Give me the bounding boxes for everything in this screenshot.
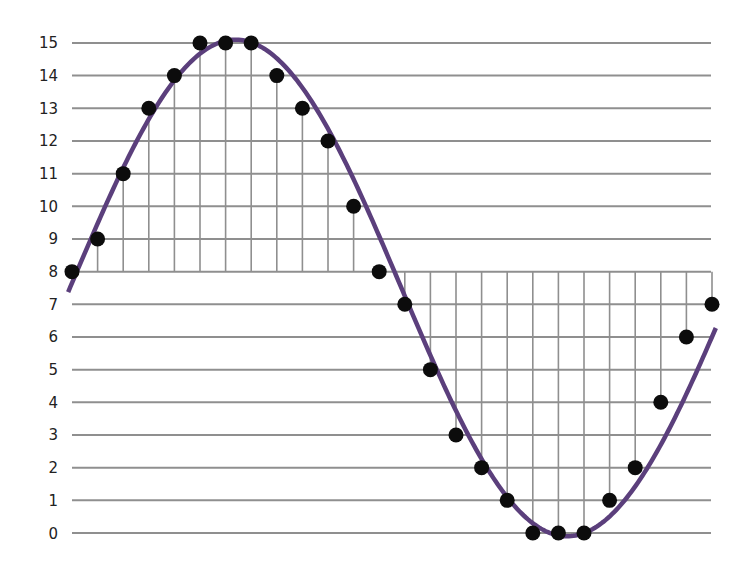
sample-point xyxy=(269,68,284,83)
y-tick-label: 13 xyxy=(39,100,58,118)
y-axis-tick-labels: 0123456789101112131415 xyxy=(39,34,58,542)
sample-point xyxy=(628,460,643,475)
sample-point xyxy=(141,101,156,116)
sample-stems xyxy=(72,43,712,533)
sample-point xyxy=(397,297,412,312)
sample-point xyxy=(116,166,131,181)
sample-point xyxy=(244,35,259,50)
y-tick-label: 11 xyxy=(39,165,58,183)
sample-point xyxy=(295,101,310,116)
sample-point xyxy=(602,493,617,508)
sample-point xyxy=(193,35,208,50)
y-tick-label: 6 xyxy=(48,328,58,346)
sample-point xyxy=(218,35,233,50)
y-tick-label: 9 xyxy=(48,230,58,248)
y-tick-label: 3 xyxy=(48,426,58,444)
sample-point xyxy=(321,133,336,148)
sample-point xyxy=(653,395,668,410)
sample-point xyxy=(525,526,540,541)
sample-point xyxy=(346,199,361,214)
sample-points xyxy=(65,35,720,540)
y-tick-label: 12 xyxy=(39,132,58,150)
y-tick-label: 5 xyxy=(48,361,58,379)
sampled-sine-chart: 0123456789101112131415 xyxy=(0,0,752,572)
sample-point xyxy=(167,68,182,83)
sample-point xyxy=(65,264,80,279)
sample-point xyxy=(679,329,694,344)
y-tick-label: 14 xyxy=(39,67,58,85)
y-tick-label: 15 xyxy=(39,34,58,52)
sample-point xyxy=(90,231,105,246)
y-tick-label: 4 xyxy=(48,394,58,412)
sample-point xyxy=(577,526,592,541)
y-tick-label: 8 xyxy=(48,263,58,281)
sample-point xyxy=(372,264,387,279)
sample-point xyxy=(500,493,515,508)
sample-point xyxy=(449,427,464,442)
sample-point xyxy=(423,362,438,377)
y-tick-label: 7 xyxy=(48,296,58,314)
sample-point xyxy=(551,526,566,541)
sample-point xyxy=(474,460,489,475)
y-tick-label: 0 xyxy=(48,525,58,543)
y-tick-label: 2 xyxy=(48,459,58,477)
sample-point xyxy=(705,297,720,312)
horizontal-gridlines xyxy=(72,43,711,533)
sine-curve xyxy=(68,40,716,537)
y-tick-label: 10 xyxy=(39,198,58,216)
y-tick-label: 1 xyxy=(48,492,58,510)
